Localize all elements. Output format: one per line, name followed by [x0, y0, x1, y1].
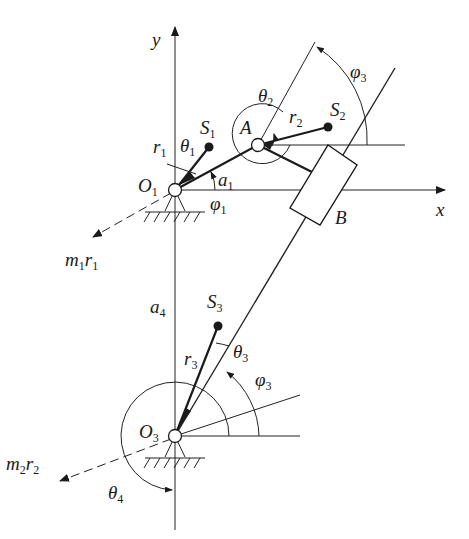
m2r2-force-line — [60, 439, 171, 481]
o1-pin — [169, 184, 182, 197]
o3-inclined-ref — [175, 395, 300, 436]
theta3-arc — [216, 343, 229, 346]
r3-label: r3 — [184, 349, 197, 371]
theta3-label: θ3 — [233, 342, 248, 364]
o3-pin — [169, 430, 182, 443]
phi3-bottom-label: φ3 — [255, 370, 272, 392]
phi1-label: φ1 — [210, 194, 227, 216]
r2-label: r2 — [289, 107, 302, 129]
a-label: A — [240, 118, 252, 137]
s3-label: S3 — [207, 292, 223, 314]
b-label: B — [335, 208, 347, 227]
r1-label: r1 — [153, 137, 166, 159]
x-axis-label: x — [436, 200, 444, 219]
a1-label: a1 — [218, 170, 234, 192]
link-o3-s3 — [175, 322, 229, 437]
a4-label: a4 — [150, 297, 166, 319]
s1-mass-center — [205, 143, 214, 152]
s2-mass-center — [324, 123, 333, 132]
m1r1-force-line — [93, 193, 171, 237]
m1r1-label: m1r1 — [65, 250, 98, 272]
y-axis-label: y — [152, 30, 160, 49]
s1-label: S1 — [200, 118, 216, 140]
s2-label: S2 — [330, 100, 346, 122]
s3-mass-center — [214, 322, 223, 331]
phi3-top-label: φ3 — [350, 62, 367, 84]
m2r2-label: m2r2 — [6, 454, 39, 476]
o3-label: O3 — [139, 422, 159, 444]
theta1-label: θ1 — [180, 136, 195, 158]
o1-label: O1 — [138, 176, 158, 198]
a-pin — [252, 139, 265, 152]
theta4-label: θ4 — [108, 483, 123, 505]
a1-arc — [211, 172, 215, 190]
theta2-label: θ2 — [258, 86, 273, 108]
mechanism-diagram: y x O1 O3 A B S1 S2 S3 r1 r2 r3 a1 a4 θ1… — [0, 0, 469, 539]
